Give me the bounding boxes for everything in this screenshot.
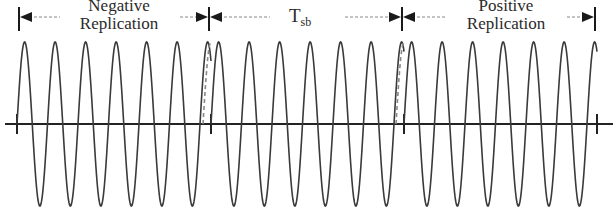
arrowhead-left-icon bbox=[403, 12, 415, 22]
arrowhead-right-icon bbox=[582, 12, 594, 22]
tsb-label: Tsb bbox=[285, 7, 315, 31]
arrowhead-right-icon bbox=[196, 12, 208, 22]
tsb-label-main: T bbox=[289, 5, 301, 26]
positive-replication-label: Positive Replication bbox=[447, 0, 565, 33]
negative-label-line2: Replication bbox=[64, 15, 174, 33]
arrowhead-right-icon bbox=[389, 12, 401, 22]
positive-label-line2: Replication bbox=[451, 15, 561, 33]
arrowhead-left-icon bbox=[210, 12, 222, 22]
tsb-label-sub: sb bbox=[301, 15, 312, 29]
waveform-canvas bbox=[0, 0, 613, 220]
positive-label-line1: Positive bbox=[451, 0, 561, 15]
arrowhead-left-icon bbox=[20, 12, 32, 22]
replication-diagram: Negative Replication Tsb Positive Replic… bbox=[0, 0, 613, 220]
negative-replication-label: Negative Replication bbox=[60, 0, 178, 33]
negative-label-line1: Negative bbox=[64, 0, 174, 15]
